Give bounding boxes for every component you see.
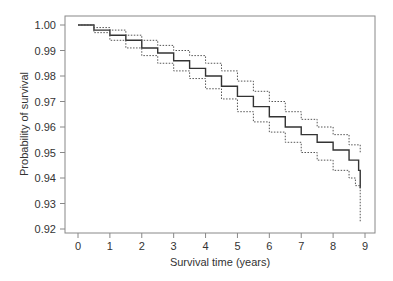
y-tick-label: 1.00	[35, 19, 56, 31]
x-tick-label: 9	[362, 240, 368, 252]
y-tick-label: 0.98	[35, 70, 56, 82]
plot-area-frame	[65, 16, 375, 233]
y-axis-title: Probability of survival	[18, 72, 30, 176]
y-tick-label: 0.92	[35, 223, 56, 235]
x-tick-label: 5	[234, 240, 240, 252]
x-tick-label: 4	[202, 240, 208, 252]
x-tick-label: 2	[139, 240, 145, 252]
x-tick-label: 3	[171, 240, 177, 252]
x-tick-label: 6	[266, 240, 272, 252]
y-axis: 1.000.990.980.970.960.950.940.930.92	[35, 19, 65, 235]
series-group	[78, 25, 360, 221]
series-line-0	[78, 25, 360, 188]
x-axis: 0123456789	[75, 233, 368, 252]
y-tick-label: 0.93	[35, 198, 56, 210]
survival-chart: 1.000.990.980.970.960.950.940.930.92 012…	[0, 0, 393, 281]
y-tick-label: 0.97	[35, 96, 56, 108]
y-tick-label: 0.94	[35, 172, 56, 184]
y-tick-label: 0.96	[35, 121, 56, 133]
x-tick-label: 7	[298, 240, 304, 252]
x-tick-label: 0	[75, 240, 81, 252]
x-tick-label: 8	[330, 240, 336, 252]
x-tick-label: 1	[107, 240, 113, 252]
series-line-2	[78, 25, 360, 221]
y-tick-label: 0.99	[35, 45, 56, 57]
y-tick-label: 0.95	[35, 147, 56, 159]
x-axis-title: Survival time (years)	[170, 256, 270, 268]
